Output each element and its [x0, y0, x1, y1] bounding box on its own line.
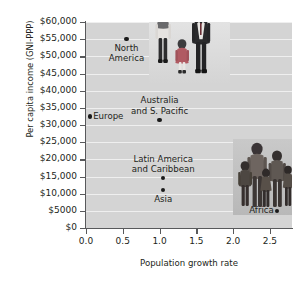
data-point-label: North America — [71, 43, 181, 63]
data-point-label: Australia and S. Pacific — [105, 95, 215, 115]
x-axis-tick-label: 0.5 — [108, 236, 138, 246]
x-axis-tick-label: 2.5 — [255, 236, 285, 246]
data-point[interactable] — [161, 188, 165, 192]
x-axis-tick-label: 1.5 — [181, 236, 211, 246]
y-axis-tick-label: $55,000 — [0, 33, 77, 43]
data-point-label: Asia — [108, 194, 218, 204]
data-point[interactable] — [161, 176, 165, 180]
africa-family-photo — [233, 139, 292, 215]
y-axis-tick-label: $35,000 — [0, 102, 77, 112]
data-point[interactable] — [157, 118, 161, 122]
y-axis-tick-label: $20,000 — [0, 153, 77, 163]
x-axis-tick — [270, 229, 271, 234]
y-axis-tick — [80, 228, 85, 229]
data-point-label: Africa — [249, 205, 274, 215]
y-axis-tick-label: $10,000 — [0, 188, 77, 198]
y-axis-tick-label: $45,000 — [0, 68, 77, 78]
y-axis-tick-label: $50,000 — [0, 50, 77, 60]
y-axis-tick — [80, 159, 85, 160]
y-axis-tick-label: $25,000 — [0, 136, 77, 146]
y-axis-tick-label: $60,000 — [0, 16, 77, 26]
scatter-plot-figure: Per capita income (GNI-PPP) — [0, 0, 308, 283]
y-axis-tick — [80, 39, 85, 40]
x-axis-tick — [160, 229, 161, 234]
y-axis-tick — [80, 125, 85, 126]
gridline — [86, 125, 292, 126]
y-axis-tick — [80, 91, 85, 92]
x-axis-tick — [86, 229, 87, 234]
y-axis-tick — [80, 142, 85, 143]
x-axis-line — [85, 228, 293, 229]
y-axis-tick — [80, 74, 85, 75]
data-point[interactable] — [124, 37, 128, 41]
y-axis-tick-label: $15,000 — [0, 171, 77, 181]
x-axis-title: Population growth rate — [86, 258, 292, 268]
x-axis-tick-label: 0.0 — [71, 236, 101, 246]
x-axis-tick — [196, 229, 197, 234]
data-point[interactable] — [88, 114, 92, 118]
x-axis-tick — [123, 229, 124, 234]
y-axis-tick — [80, 177, 85, 178]
gridline — [86, 91, 292, 92]
x-axis-tick — [233, 229, 234, 234]
y-axis-tick — [80, 211, 85, 212]
y-axis-tick-label: $40,000 — [0, 85, 77, 95]
data-point-label: Latin America and Caribbean — [108, 154, 218, 174]
y-axis-tick-label: $5000 — [0, 205, 77, 215]
y-axis-tick-label: $0 — [0, 222, 77, 232]
x-axis-tick-label: 2.0 — [218, 236, 248, 246]
x-axis-tick-label: 1.0 — [145, 236, 175, 246]
y-axis-tick — [80, 22, 85, 23]
y-axis-tick — [80, 108, 85, 109]
y-axis-tick-label: $30,000 — [0, 119, 77, 129]
y-axis-tick — [80, 194, 85, 195]
